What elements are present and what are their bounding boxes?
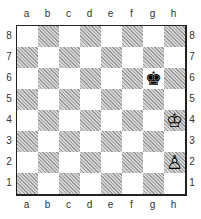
square-b1[interactable] — [38, 173, 59, 194]
square-f5[interactable] — [122, 89, 143, 110]
square-f7[interactable] — [122, 47, 143, 68]
square-d8[interactable] — [80, 26, 101, 47]
file-label-bottom: d — [79, 199, 100, 210]
square-f6[interactable] — [122, 68, 143, 89]
rank-label-left: 4 — [3, 109, 15, 130]
square-c3[interactable] — [59, 131, 80, 152]
square-h6[interactable] — [164, 68, 185, 89]
square-g3[interactable] — [143, 131, 164, 152]
rank-label-right: 6 — [186, 67, 198, 88]
square-e6[interactable] — [101, 68, 122, 89]
square-f1[interactable] — [122, 173, 143, 194]
black-king-icon[interactable]: ♚ — [143, 68, 164, 89]
file-label-top: e — [100, 8, 121, 19]
square-e5[interactable] — [101, 89, 122, 110]
rank-label-left: 6 — [3, 67, 15, 88]
file-label-bottom: b — [37, 199, 58, 210]
square-f3[interactable] — [122, 131, 143, 152]
rank-label-right: 8 — [186, 25, 198, 46]
square-a6[interactable] — [17, 68, 38, 89]
square-e3[interactable] — [101, 131, 122, 152]
square-d1[interactable] — [80, 173, 101, 194]
rank-label-right: 1 — [186, 172, 198, 193]
file-label-bottom: e — [100, 199, 121, 210]
square-d5[interactable] — [80, 89, 101, 110]
file-label-top: f — [121, 8, 142, 19]
square-h1[interactable] — [164, 173, 185, 194]
square-g4[interactable] — [143, 110, 164, 131]
file-label-top: b — [37, 8, 58, 19]
square-e8[interactable] — [101, 26, 122, 47]
rank-label-left: 2 — [3, 151, 15, 172]
file-label-bottom: a — [16, 199, 37, 210]
square-c1[interactable] — [59, 173, 80, 194]
file-label-top: a — [16, 8, 37, 19]
square-b7[interactable] — [38, 47, 59, 68]
square-a4[interactable] — [17, 110, 38, 131]
square-d2[interactable] — [80, 152, 101, 173]
square-f2[interactable] — [122, 152, 143, 173]
square-g2[interactable] — [143, 152, 164, 173]
square-c6[interactable] — [59, 68, 80, 89]
rank-label-left: 7 — [3, 46, 15, 67]
square-a3[interactable] — [17, 131, 38, 152]
square-b8[interactable] — [38, 26, 59, 47]
white-king-icon[interactable]: ♔ — [164, 110, 185, 131]
rank-label-right: 5 — [186, 88, 198, 109]
square-f4[interactable] — [122, 110, 143, 131]
square-c8[interactable] — [59, 26, 80, 47]
rank-label-right: 3 — [186, 130, 198, 151]
square-h8[interactable] — [164, 26, 185, 47]
rank-label-right: 4 — [186, 109, 198, 130]
file-label-top: h — [163, 8, 184, 19]
square-d4[interactable] — [80, 110, 101, 131]
square-e7[interactable] — [101, 47, 122, 68]
file-label-bottom: f — [121, 199, 142, 210]
file-label-top: c — [58, 8, 79, 19]
square-b6[interactable] — [38, 68, 59, 89]
square-e2[interactable] — [101, 152, 122, 173]
square-a5[interactable] — [17, 89, 38, 110]
square-d3[interactable] — [80, 131, 101, 152]
square-h5[interactable] — [164, 89, 185, 110]
square-a1[interactable] — [17, 173, 38, 194]
square-a8[interactable] — [17, 26, 38, 47]
square-g5[interactable] — [143, 89, 164, 110]
file-label-top: d — [79, 8, 100, 19]
rank-label-left: 1 — [3, 172, 15, 193]
file-label-bottom: g — [142, 199, 163, 210]
square-b4[interactable] — [38, 110, 59, 131]
square-a7[interactable] — [17, 47, 38, 68]
square-b5[interactable] — [38, 89, 59, 110]
square-h3[interactable] — [164, 131, 185, 152]
square-b2[interactable] — [38, 152, 59, 173]
file-label-top: g — [142, 8, 163, 19]
square-c5[interactable] — [59, 89, 80, 110]
square-c7[interactable] — [59, 47, 80, 68]
square-c2[interactable] — [59, 152, 80, 173]
rank-label-right: 2 — [186, 151, 198, 172]
square-e4[interactable] — [101, 110, 122, 131]
square-d7[interactable] — [80, 47, 101, 68]
square-h7[interactable] — [164, 47, 185, 68]
square-e1[interactable] — [101, 173, 122, 194]
file-label-bottom: c — [58, 199, 79, 210]
rank-label-left: 3 — [3, 130, 15, 151]
rank-label-right: 7 — [186, 46, 198, 67]
square-b3[interactable] — [38, 131, 59, 152]
square-f8[interactable] — [122, 26, 143, 47]
white-pawn-icon[interactable]: ♙ — [164, 152, 185, 173]
file-label-bottom: h — [163, 199, 184, 210]
square-g8[interactable] — [143, 26, 164, 47]
square-g1[interactable] — [143, 173, 164, 194]
square-a2[interactable] — [17, 152, 38, 173]
square-d6[interactable] — [80, 68, 101, 89]
square-c4[interactable] — [59, 110, 80, 131]
chess-board: ♚♔♙ — [16, 25, 187, 196]
rank-label-left: 8 — [3, 25, 15, 46]
square-g7[interactable] — [143, 47, 164, 68]
rank-label-left: 5 — [3, 88, 15, 109]
